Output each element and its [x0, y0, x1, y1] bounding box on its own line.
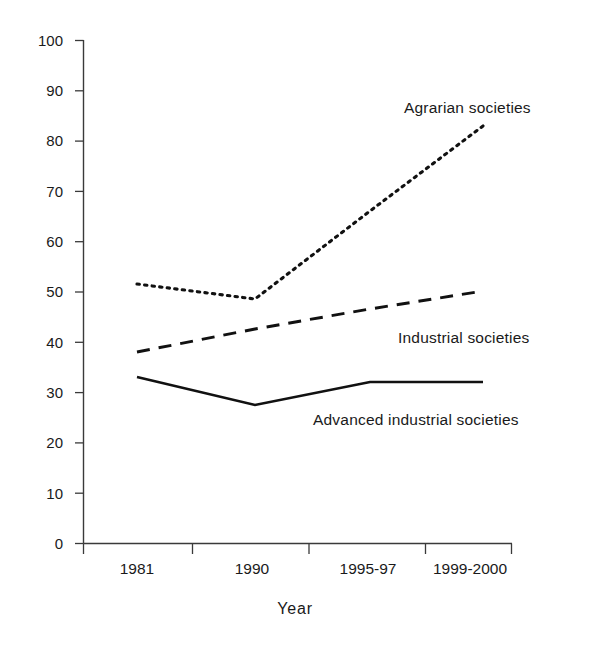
x-tick-label-1990: 1990 — [235, 560, 270, 577]
y-tick-label-0: 0 — [55, 535, 63, 552]
y-tick-label-10: 10 — [46, 485, 63, 502]
y-tick-label-40: 40 — [46, 334, 63, 351]
x-tick-label-1995-97: 1995-97 — [340, 560, 397, 577]
y-tick-label-30: 30 — [46, 384, 63, 401]
y-tick-label-60: 60 — [46, 233, 63, 250]
line-chart-figure: 100 90 80 70 60 50 40 30 20 10 0 1981 19… — [0, 0, 613, 654]
x-axis-title: Year — [277, 600, 313, 617]
y-tick-label-20: 20 — [46, 434, 63, 451]
y-tick-label-80: 80 — [46, 132, 63, 149]
y-tick-label-50: 50 — [46, 283, 63, 300]
y-tick-label-70: 70 — [46, 183, 63, 200]
x-tick-label-1981: 1981 — [120, 560, 154, 577]
series-label-agrarian-societies: Agrarian societies — [404, 99, 531, 116]
chart-canvas: 100 90 80 70 60 50 40 30 20 10 0 1981 19… — [0, 0, 613, 654]
series-line-advanced-industrial-societies — [137, 377, 483, 405]
series-line-agrarian-societies — [137, 126, 483, 299]
y-tick-marks — [75, 41, 84, 544]
y-tick-label-100: 100 — [38, 32, 63, 49]
x-tick-marks — [84, 544, 512, 555]
x-tick-label-1999-2000: 1999-2000 — [433, 560, 508, 577]
y-tick-label-90: 90 — [46, 82, 63, 99]
series-label-industrial-societies: Industrial societies — [398, 329, 530, 346]
series-label-advanced-industrial-societies: Advanced industrial societies — [313, 411, 519, 428]
